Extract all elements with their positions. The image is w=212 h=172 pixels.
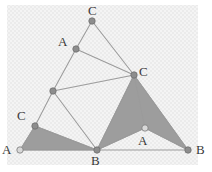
vertex-dot-c-right	[131, 72, 137, 78]
vertex-dot-mid	[50, 88, 56, 94]
geometry-diagram	[0, 0, 212, 172]
vertex-label-c-left: C	[17, 109, 26, 122]
vertex-label-b-right: B	[196, 143, 205, 156]
vertex-label-a-left: A	[2, 143, 11, 156]
vertex-dot-b-right	[185, 147, 191, 153]
vertex-label-b-bottom: B	[91, 154, 100, 167]
vertex-dot-c-left	[32, 123, 38, 129]
vertex-label-a-right: A	[138, 134, 147, 147]
vertex-label-a-upper: A	[58, 35, 67, 48]
vertex-dot-a-upper	[73, 46, 79, 52]
vertex-dot-c-top	[89, 18, 95, 24]
figure-canvas: CACCABAB	[0, 0, 212, 172]
vertex-dot-a-right	[142, 125, 148, 131]
vertex-dot-a-left	[17, 147, 23, 153]
vertex-label-c-right: C	[139, 65, 148, 78]
vertex-label-c-top: C	[88, 4, 97, 17]
